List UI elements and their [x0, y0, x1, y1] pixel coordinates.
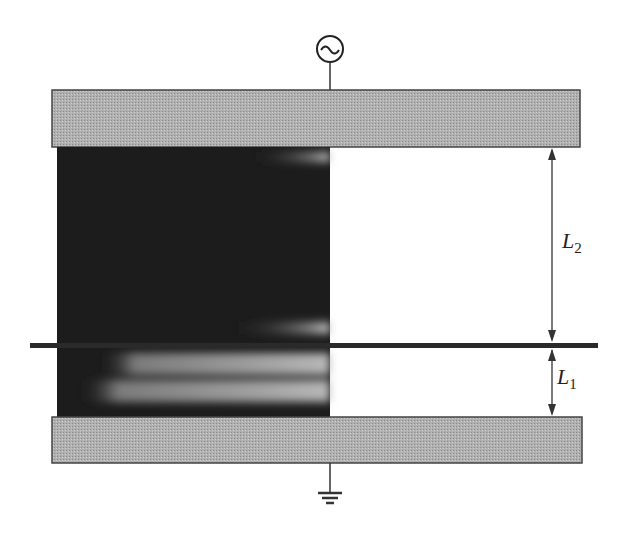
ac-source-icon	[317, 36, 343, 90]
discharge-region	[57, 147, 330, 417]
ground-icon	[318, 463, 342, 503]
diagram-canvas: L2 L1	[0, 0, 628, 534]
top-electrode	[52, 90, 580, 147]
label-l1: L1	[557, 364, 577, 393]
dimension-arrow-l2	[548, 148, 556, 342]
bottom-electrode	[52, 417, 582, 463]
intermediate-plate	[30, 343, 598, 348]
label-l2: L2	[562, 228, 582, 257]
dimension-arrow-l1	[548, 349, 556, 416]
diagram-svg	[0, 0, 628, 534]
